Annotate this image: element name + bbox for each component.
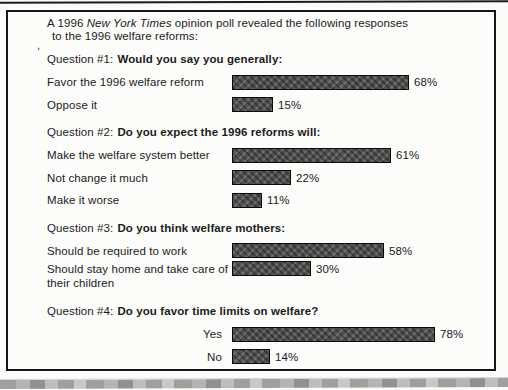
question-group: Question #3:Do you think welfare mothers… <box>47 221 488 296</box>
bar-wrap: 78% <box>232 327 463 342</box>
bar-value: 14% <box>275 351 298 363</box>
scan-edge-strip <box>0 377 508 389</box>
bar-value: 30% <box>316 263 339 275</box>
question-group: Question #2:Do you expect the 1996 refor… <box>47 125 488 212</box>
bar <box>232 148 391 163</box>
intro-line2: to the 1996 welfare reforms: <box>52 30 488 43</box>
bar-row: Make the welfare system better61% <box>47 144 488 167</box>
questions: Question #1:Would you say you generally:… <box>47 52 488 368</box>
bar-wrap: 58% <box>232 243 412 258</box>
question-text: Do you favor time limits on welfare? <box>117 305 318 317</box>
question-prefix: Question #3: <box>47 222 113 234</box>
bar-value: 15% <box>278 99 301 111</box>
bar-row: Favor the 1996 welfare reform68% <box>47 71 488 94</box>
bar <box>232 261 311 276</box>
bar <box>232 327 435 342</box>
bar <box>232 243 384 258</box>
intro-italic-source: New York Times <box>87 17 172 29</box>
question-header: Question #3:Do you think welfare mothers… <box>47 221 488 235</box>
bar-wrap: 11% <box>232 193 289 208</box>
bar-value: 68% <box>414 76 437 88</box>
question-text: Do you think welfare mothers: <box>117 222 285 234</box>
bar-row: Make it worse11% <box>47 189 488 212</box>
bar-row: Should stay home and take care of their … <box>47 262 488 295</box>
bar <box>232 349 270 364</box>
bar-value: 61% <box>396 149 419 161</box>
bar-row: Oppose it15% <box>47 94 488 117</box>
bar-label: No <box>47 350 232 364</box>
bar-row: Not change it much22% <box>47 167 488 190</box>
bar-wrap: 14% <box>232 349 298 364</box>
bar-label: Yes <box>47 327 232 341</box>
bar-value: 11% <box>267 194 289 206</box>
bar-label: Should be required to work <box>47 244 232 258</box>
bar-label: Oppose it <box>47 98 232 112</box>
panel-content: , A 1996 New York Times opinion poll rev… <box>8 12 494 368</box>
bar-value: 78% <box>440 328 463 340</box>
question-text: Would you say you generally: <box>117 53 282 65</box>
bar <box>232 75 409 90</box>
bar-value: 58% <box>389 245 412 257</box>
bar-label: Make it worse <box>47 193 232 207</box>
question-header: Question #1:Would you say you generally: <box>47 52 488 66</box>
question-prefix: Question #1: <box>47 53 113 65</box>
top-rule-line <box>0 0 508 3</box>
bar-label: Not change it much <box>47 171 232 185</box>
intro-pre-italic: A 1996 <box>47 17 87 29</box>
question-text: Do you expect the 1996 reforms will: <box>117 126 320 138</box>
bar-row: Yes78% <box>47 323 488 346</box>
bar <box>232 193 262 208</box>
question-group: Question #1:Would you say you generally:… <box>47 52 488 116</box>
bar-value: 22% <box>296 172 319 184</box>
question-header: Question #2:Do you expect the 1996 refor… <box>47 125 488 139</box>
poll-figure-panel: , A 1996 New York Times opinion poll rev… <box>6 10 496 371</box>
question-prefix: Question #2: <box>47 126 113 138</box>
scan-artifact-comma: , <box>37 39 40 51</box>
bar <box>232 170 291 185</box>
bar-row: No14% <box>47 346 488 369</box>
bar-label: Should stay home and take care of their … <box>47 262 232 290</box>
bar-row: Should be required to work58% <box>47 240 488 263</box>
question-prefix: Question #4: <box>47 305 113 317</box>
bar-wrap: 30% <box>232 261 339 276</box>
question-group: Question #4:Do you favor time limits on … <box>47 304 488 368</box>
bar-wrap: 22% <box>232 170 319 185</box>
bar-label: Make the welfare system better <box>47 148 232 162</box>
question-header: Question #4:Do you favor time limits on … <box>47 304 488 318</box>
bar-wrap: 68% <box>232 75 437 90</box>
intro-text: A 1996 New York Times opinion poll revea… <box>47 17 488 43</box>
bar <box>232 97 273 112</box>
bar-wrap: 61% <box>232 148 419 163</box>
intro-post-italic: opinion poll revealed the following resp… <box>172 17 409 29</box>
bar-wrap: 15% <box>232 97 301 112</box>
bar-label: Favor the 1996 welfare reform <box>47 75 232 89</box>
